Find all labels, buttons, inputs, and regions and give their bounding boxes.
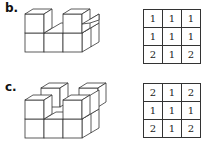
grid-cell: 2 [144,120,163,138]
grid-cell: 1 [163,84,182,102]
grid-cell: 2 [144,84,163,102]
grid-row: 2 1 2 [144,84,201,102]
grid-cell: 2 [182,120,201,138]
grid-cell: 1 [163,10,182,28]
grid-cell: 1 [163,120,182,138]
cube-figure-b [0,0,120,70]
cube-figure-c [0,80,120,147]
height-grid-b: 1 1 1 1 1 1 2 1 2 [143,9,201,64]
grid-cell: 1 [144,28,163,46]
grid-cell: 1 [163,28,182,46]
grid-row: 1 1 1 [144,10,201,28]
grid-row: 2 1 2 [144,46,201,64]
grid-cell: 1 [182,28,201,46]
grid-cell: 2 [182,84,201,102]
grid-cell: 2 [182,46,201,64]
grid-cell: 1 [182,10,201,28]
grid-cell: 1 [163,46,182,64]
grid-cell: 1 [144,102,163,120]
grid-cell: 1 [182,102,201,120]
grid-cell: 1 [144,10,163,28]
grid-row: 1 1 1 [144,102,201,120]
height-grid-c: 2 1 2 1 1 1 2 1 2 [143,83,201,138]
grid-row: 1 1 1 [144,28,201,46]
grid-cell: 2 [144,46,163,64]
grid-cell: 1 [163,102,182,120]
grid-row: 2 1 2 [144,120,201,138]
